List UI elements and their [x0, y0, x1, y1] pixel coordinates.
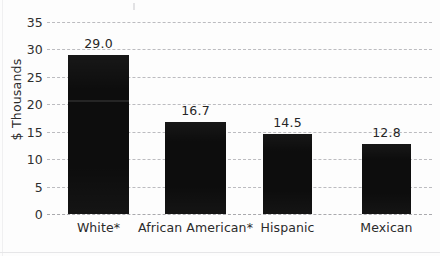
- scan-streak: [68, 100, 129, 102]
- axis-baseline: [47, 214, 432, 215]
- page-bottom-edge: [0, 252, 440, 253]
- scan-artifact-speck: [133, 3, 135, 10]
- bar: [362, 144, 411, 214]
- y-axis-tick-label: 15: [3, 124, 43, 139]
- bar: [165, 122, 226, 214]
- bar: [68, 55, 129, 214]
- y-axis-tick-label: 25: [3, 69, 43, 84]
- y-axis-tick-label: 5: [3, 179, 43, 194]
- bar-value-label: 14.5: [263, 115, 312, 130]
- y-axis-tick-label: 35: [3, 15, 43, 30]
- bar-value-label: 12.8: [362, 125, 411, 140]
- bar: [263, 134, 312, 214]
- bar-value-label: 29.0: [68, 36, 129, 51]
- x-axis-tick-label: Mexican: [307, 220, 440, 235]
- y-axis-tick-labels: 35302520151050: [0, 22, 43, 214]
- y-axis-tick-label: 20: [3, 97, 43, 112]
- bar-value-label: 16.7: [165, 103, 226, 118]
- y-axis-tick-label: 30: [3, 42, 43, 57]
- bar-chart: $ Thousands 35302520151050 29.016.714.51…: [0, 0, 440, 256]
- gridline: [47, 22, 432, 23]
- y-axis-tick-label: 10: [3, 152, 43, 167]
- plot-area: 29.016.714.512.8: [47, 22, 432, 214]
